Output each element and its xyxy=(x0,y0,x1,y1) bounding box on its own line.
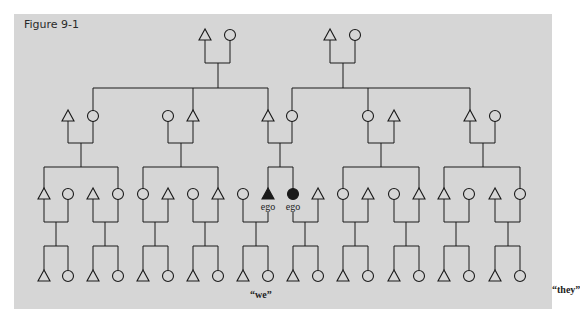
male-triangle-icon xyxy=(388,110,400,121)
male-triangle-icon xyxy=(38,188,50,199)
male-triangle-icon xyxy=(413,188,425,199)
female-circle-icon xyxy=(188,189,199,200)
female-circle-icon xyxy=(464,271,475,282)
female-circle-icon xyxy=(287,111,298,122)
female-circle-icon xyxy=(138,189,149,200)
female-circle-icon xyxy=(490,111,501,122)
they-label: “they” xyxy=(552,284,580,295)
female-circle-icon xyxy=(350,30,361,41)
female-circle-icon xyxy=(213,271,224,282)
ego-label: ego xyxy=(261,201,275,212)
female-circle-icon xyxy=(338,189,349,200)
female-circle-icon xyxy=(363,111,374,122)
female-circle-icon xyxy=(88,111,99,122)
male-triangle-icon xyxy=(199,29,211,40)
male-triangle-icon xyxy=(237,270,249,281)
male-triangle-icon xyxy=(337,270,349,281)
male-triangle-icon xyxy=(212,188,224,199)
male-triangle-icon xyxy=(287,270,299,281)
ego-label: ego xyxy=(286,201,300,212)
female-circle-icon xyxy=(414,271,425,282)
female-circle-icon xyxy=(225,30,236,41)
male-triangle-icon xyxy=(162,188,174,199)
male-triangle-icon xyxy=(464,110,476,121)
male-triangle-icon xyxy=(187,270,199,281)
male-triangle-icon xyxy=(438,270,450,281)
male-triangle-icon xyxy=(187,110,199,121)
we-label: “we” xyxy=(250,289,272,300)
female-circle-icon xyxy=(63,271,74,282)
male-triangle-icon xyxy=(489,270,501,281)
female-circle-icon xyxy=(515,271,526,282)
female-circle-icon xyxy=(113,271,124,282)
female-circle-icon xyxy=(238,189,249,200)
female-circle-icon xyxy=(515,189,526,200)
ego-male-triangle-icon xyxy=(262,188,274,199)
male-triangle-icon xyxy=(87,270,99,281)
female-circle-icon xyxy=(389,189,400,200)
female-circle-icon xyxy=(363,271,374,282)
female-circle-icon xyxy=(113,189,124,200)
male-triangle-icon xyxy=(324,29,336,40)
female-circle-icon xyxy=(263,271,274,282)
male-triangle-icon xyxy=(38,270,50,281)
male-triangle-icon xyxy=(62,110,74,121)
female-circle-icon xyxy=(163,271,174,282)
male-triangle-icon xyxy=(262,110,274,121)
male-triangle-icon xyxy=(489,188,501,199)
male-triangle-icon xyxy=(362,188,374,199)
male-triangle-icon xyxy=(438,188,450,199)
female-circle-icon xyxy=(163,111,174,122)
female-circle-icon xyxy=(313,271,324,282)
ego-female-circle-icon xyxy=(288,189,299,200)
male-triangle-icon xyxy=(137,270,149,281)
female-circle-icon xyxy=(464,189,475,200)
male-triangle-icon xyxy=(87,188,99,199)
male-triangle-icon xyxy=(312,188,324,199)
male-triangle-icon xyxy=(388,270,400,281)
female-circle-icon xyxy=(63,189,74,200)
